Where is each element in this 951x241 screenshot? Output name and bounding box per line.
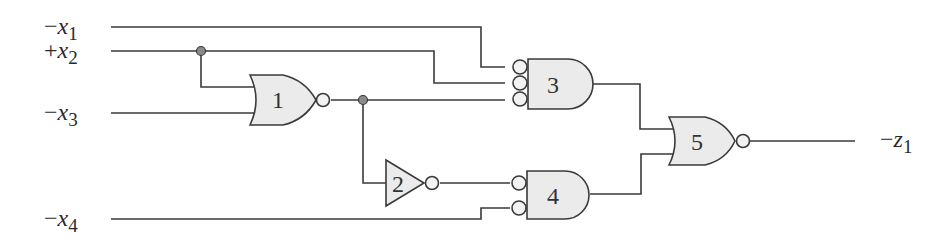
wire-x1 (111, 27, 505, 67)
inversion-bubble-icon (426, 177, 439, 190)
inversion-bubble-icon (513, 60, 527, 74)
gate-1-nor: 1 (250, 75, 330, 125)
inversion-bubble-icon (513, 76, 527, 90)
wire-x2 (111, 51, 505, 83)
gate-3-and: 3 (513, 59, 593, 109)
inversion-bubble-icon (512, 201, 526, 215)
gate-3-label: 3 (547, 72, 559, 98)
wire-gate1-to-gate2 (363, 100, 387, 183)
wire-x4 (111, 208, 510, 219)
inversion-bubble-icon (317, 94, 330, 107)
junction-gate1-out (359, 96, 368, 105)
wire-gate4-to-gate5 (590, 154, 675, 194)
input-label-x4: −x4 (44, 205, 78, 236)
inversion-bubble-icon (513, 92, 527, 106)
junction-x2 (197, 47, 206, 56)
input-label-x3: −x3 (44, 99, 78, 130)
inversion-bubble-icon (512, 176, 526, 190)
logic-circuit-diagram: −x1 +x2 −x3 −x4 1 2 3 (0, 0, 951, 241)
gate-1-label: 1 (272, 87, 284, 113)
gate-4-label: 4 (547, 183, 559, 209)
wire-gate3-to-gate5 (592, 84, 675, 129)
inversion-bubble-icon (737, 135, 750, 148)
wire-x2-to-gate1 (201, 51, 256, 87)
gate-5-nor: 5 (669, 117, 750, 165)
output-label-z1: −z1 (880, 126, 912, 157)
gate-4-and: 4 (512, 171, 589, 219)
gate-2-inverter: 2 (386, 160, 439, 206)
gate-2-label: 2 (392, 171, 404, 197)
gate-5-label: 5 (691, 129, 703, 155)
